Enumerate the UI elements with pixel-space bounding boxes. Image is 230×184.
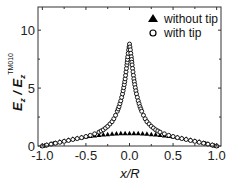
- data-point-circle: [202, 141, 206, 145]
- data-point-circle: [71, 138, 75, 142]
- y-tick-label: 10: [21, 23, 35, 38]
- data-point-circle: [189, 138, 193, 142]
- data-point-triangle: [110, 131, 115, 136]
- data-point-triangle: [144, 131, 149, 136]
- data-point-triangle: [131, 131, 136, 136]
- x-tick-label: 0.5: [164, 148, 182, 163]
- y-tick-label: 5: [28, 81, 35, 96]
- x-tick-label: 1.0: [208, 148, 226, 163]
- data-point-triangle: [123, 131, 128, 136]
- data-point-circle: [175, 136, 179, 140]
- data-point-circle: [62, 139, 66, 143]
- data-point-triangle: [149, 132, 154, 137]
- legend-label-without-tip: without tip: [163, 12, 218, 26]
- data-point-circle: [114, 113, 118, 117]
- data-point-circle: [180, 137, 184, 141]
- data-point-circle: [184, 138, 188, 142]
- data-point-circle: [84, 135, 88, 139]
- x-tick-labels: -1.0-0.50.00.51.0: [31, 148, 226, 163]
- legend-label-with-tip: with tip: [163, 26, 202, 40]
- svg-text:Ez / EzTM010: Ez / EzTM010: [7, 53, 27, 111]
- data-point-circle: [193, 139, 197, 143]
- legend: without tip with tip: [148, 12, 218, 40]
- legend-triangle-icon: [148, 14, 158, 22]
- data-point-circle: [58, 140, 62, 144]
- data-point-triangle: [105, 132, 110, 137]
- data-point-circle: [171, 135, 175, 139]
- data-point-triangle: [118, 131, 123, 136]
- data-point-circle: [67, 138, 71, 142]
- chart: -1.0-0.50.00.51.0 0510 x/R Ez / EzTM010 …: [0, 0, 230, 184]
- data-point-circle: [167, 133, 171, 137]
- data-point-circle: [93, 132, 97, 136]
- data-point-circle: [140, 109, 144, 113]
- data-point-circle: [53, 141, 57, 145]
- data-point-triangle: [127, 131, 132, 136]
- x-tick-label: -0.5: [75, 148, 97, 163]
- x-tick-label: 0.0: [120, 148, 138, 163]
- data-point-triangle: [114, 131, 119, 136]
- data-point-circle: [158, 130, 162, 134]
- data-point-circle: [197, 140, 201, 144]
- x-axis-label: x/R: [119, 166, 140, 181]
- data-point-triangle: [136, 131, 141, 136]
- y-axis-label: Ez / EzTM010: [7, 53, 27, 111]
- data-point-circle: [80, 136, 84, 140]
- legend-circle-icon: [150, 30, 156, 36]
- data-point-circle: [75, 137, 79, 141]
- y-tick-label: 0: [28, 139, 35, 154]
- data-point-triangle: [140, 131, 145, 136]
- data-point-circle: [88, 133, 92, 137]
- data-point-circle: [162, 132, 166, 136]
